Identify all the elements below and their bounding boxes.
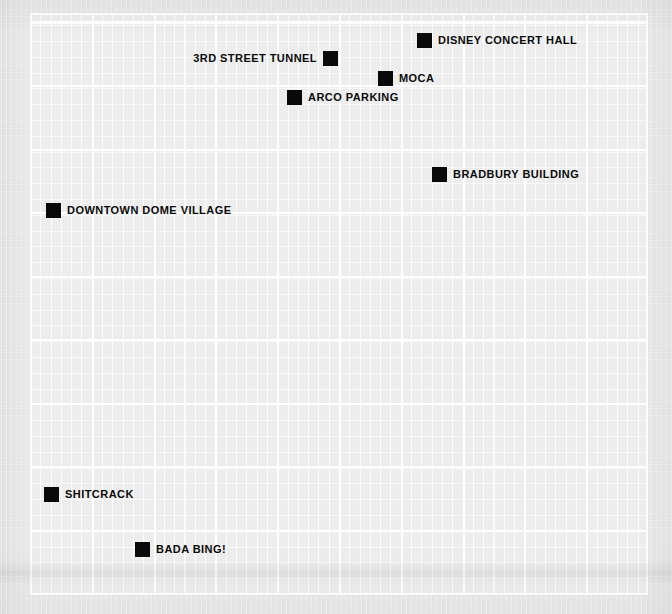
poi-bradbury-building[interactable]: BRADBURY BUILDING — [432, 167, 579, 182]
poi-disney-concert-hall[interactable]: DISNEY CONCERT HALL — [417, 33, 577, 48]
poi-marker-icon[interactable] — [287, 90, 302, 105]
poi-label: ARCO PARKING — [308, 92, 399, 103]
poi-marker-icon[interactable] — [44, 487, 59, 502]
poi-label: DISNEY CONCERT HALL — [438, 35, 577, 46]
poi-moca[interactable]: MOCA — [378, 71, 434, 86]
poi-marker-icon[interactable] — [432, 167, 447, 182]
poi-downtown-dome-village[interactable]: DOWNTOWN DOME VILLAGE — [46, 203, 231, 218]
poi-label: MOCA — [399, 73, 434, 84]
poi-label: DOWNTOWN DOME VILLAGE — [67, 205, 231, 216]
poi-marker-icon[interactable] — [46, 203, 61, 218]
poi-label: 3RD STREET TUNNEL — [193, 53, 317, 64]
poi-marker-icon[interactable] — [378, 71, 393, 86]
poi-marker-icon[interactable] — [135, 542, 150, 557]
poi-bada-bing[interactable]: BADA BING! — [135, 542, 226, 557]
map-canvas[interactable]: DISNEY CONCERT HALL3RD STREET TUNNELMOCA… — [0, 0, 672, 614]
poi-shitcrack[interactable]: SHITCRACK — [44, 487, 134, 502]
poi-marker-icon[interactable] — [417, 33, 432, 48]
poi-label: SHITCRACK — [65, 489, 134, 500]
poi-label: BADA BING! — [156, 544, 226, 555]
poi-arco-parking[interactable]: ARCO PARKING — [287, 90, 399, 105]
poi-3rd-street-tunnel[interactable]: 3RD STREET TUNNEL — [193, 51, 338, 66]
poi-marker-icon[interactable] — [323, 51, 338, 66]
poi-label: BRADBURY BUILDING — [453, 169, 579, 180]
